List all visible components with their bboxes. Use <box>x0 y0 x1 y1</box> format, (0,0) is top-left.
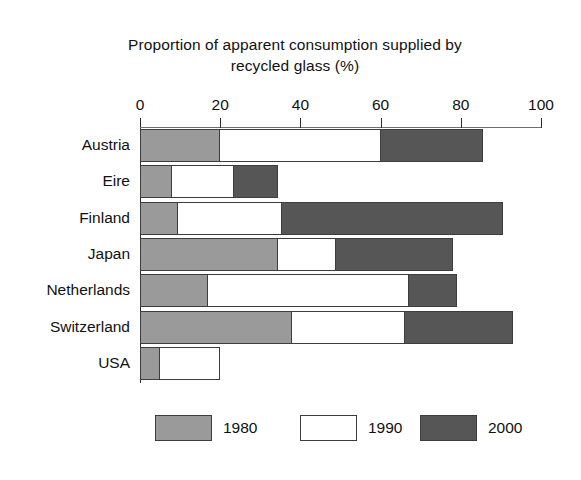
legend-swatch-2000 <box>420 415 477 441</box>
bar-row: Netherlands <box>0 273 581 309</box>
bar-row: Finland <box>0 201 581 237</box>
legend-item-1990[interactable]: 1990 <box>300 412 402 444</box>
bar-row: Switzerland <box>0 310 581 346</box>
category-label-finland: Finland <box>79 209 130 227</box>
x-tick-mark-80 <box>461 118 462 128</box>
category-label-eire: Eire <box>102 172 130 190</box>
bar-segment-finland-1980 <box>140 202 178 235</box>
bar-segment-switzerland-1980 <box>140 311 292 344</box>
bar-segment-netherlands-1980 <box>140 274 208 307</box>
bar-segment-eire-1980 <box>140 165 172 198</box>
x-tick-mark-40 <box>300 118 301 128</box>
bar-segment-usa-1980 <box>140 347 160 380</box>
bar-row: Japan <box>0 237 581 273</box>
chart-legend: 198019902000 <box>0 412 581 448</box>
legend-label-1980: 1980 <box>223 419 257 437</box>
legend-label-2000: 2000 <box>488 419 522 437</box>
x-tick-mark-60 <box>381 118 382 128</box>
category-label-switzerland: Switzerland <box>50 318 130 336</box>
category-label-netherlands: Netherlands <box>46 281 130 299</box>
legend-label-1990: 1990 <box>368 419 402 437</box>
plot-area: AustriaEireFinlandJapanNetherlandsSwitze… <box>0 0 581 480</box>
category-label-usa: USA <box>98 354 130 372</box>
bar-row: Austria <box>0 128 581 164</box>
legend-item-2000[interactable]: 2000 <box>420 412 522 444</box>
legend-swatch-1990 <box>300 415 357 441</box>
bar-segment-japan-1980 <box>140 238 278 271</box>
legend-swatch-1980 <box>155 415 212 441</box>
legend-item-1980[interactable]: 1980 <box>155 412 257 444</box>
x-tick-mark-20 <box>220 118 221 128</box>
category-label-japan: Japan <box>88 245 130 263</box>
category-label-austria: Austria <box>82 136 130 154</box>
bar-row: USA <box>0 346 581 382</box>
recycled-glass-bar-chart: Proportion of apparent consumption suppl… <box>0 0 581 480</box>
bar-segment-austria-1980 <box>140 129 220 162</box>
bar-row: Eire <box>0 164 581 200</box>
